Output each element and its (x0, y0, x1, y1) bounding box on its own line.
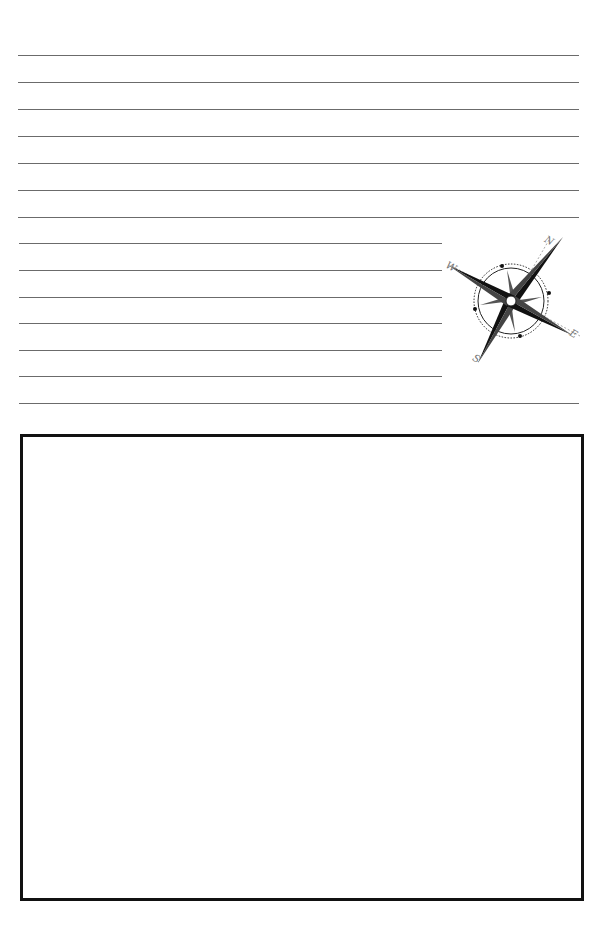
writing-line (18, 163, 579, 164)
writing-line-short (19, 270, 442, 271)
compass-rose-icon: N W E S (440, 225, 600, 375)
writing-line-short (19, 350, 442, 351)
writing-line (18, 136, 579, 137)
writing-line (18, 82, 579, 83)
writing-line (18, 55, 579, 56)
writing-line (18, 109, 579, 110)
writing-line (18, 190, 579, 191)
writing-line-short (19, 376, 442, 377)
drawing-box (20, 434, 584, 901)
writing-line-short (19, 323, 442, 324)
writing-line (18, 217, 579, 218)
writing-line-short (19, 243, 442, 244)
writing-line (19, 403, 579, 404)
writing-line-short (19, 297, 442, 298)
